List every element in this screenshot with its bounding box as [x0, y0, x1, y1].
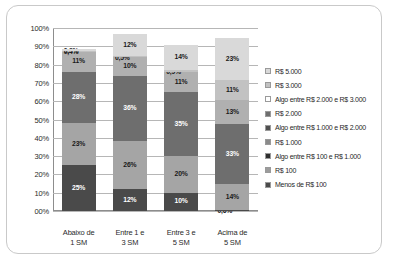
- legend-item-label: Algo entre R$ 100 e R$ 1.000: [275, 153, 361, 160]
- legend-item[interactable]: Menos de R$ 100: [265, 178, 385, 192]
- y-axis-labels: 00%10%20%30%40%50%60%70%80%90%100%: [11, 28, 51, 211]
- segment-value-label: 10%: [123, 63, 136, 70]
- bar-segment[interactable]: 23%: [62, 123, 96, 165]
- bar-segment[interactable]: [62, 49, 96, 51]
- segment-value-label: 11%: [72, 58, 85, 65]
- bar-segment[interactable]: 13%: [215, 100, 249, 124]
- segment-value-label: 14%: [175, 54, 188, 61]
- chart-card: 00%10%20%30%40%50%60%70%80%90%100% 25%23…: [6, 5, 382, 254]
- bar-segment[interactable]: 12%: [113, 189, 147, 211]
- bar-column[interactable]: 12%26%36%10%0,5%12%: [113, 28, 147, 211]
- legend-item[interactable]: R$ 1.000: [265, 135, 385, 149]
- legend-item[interactable]: R$ 2.000: [265, 107, 385, 121]
- bar-segment[interactable]: 14%: [215, 184, 249, 210]
- segment-value-label: 12%: [123, 197, 136, 204]
- segment-value-label: 14%: [226, 194, 239, 201]
- bar-segment[interactable]: 10%: [164, 193, 198, 211]
- segment-value-label: 23%: [226, 56, 239, 63]
- bar-segment[interactable]: 25%: [62, 165, 96, 211]
- segment-value-label: 35%: [175, 121, 188, 128]
- y-axis-tick-label: 10%: [35, 188, 49, 197]
- y-axis-tick-label: 00%: [35, 207, 49, 216]
- segment-value-label: 28%: [72, 94, 85, 101]
- bar-segment[interactable]: 14%: [164, 45, 198, 71]
- legend-item-label: R$ 5.000: [275, 68, 301, 75]
- y-axis-tick-label: 70%: [35, 78, 49, 87]
- segment-value-label: 20%: [175, 171, 188, 178]
- y-axis-tick-label: 60%: [35, 97, 49, 106]
- legend-item-label: Menos de R$ 100: [275, 181, 327, 188]
- y-axis-tick-label: 50%: [35, 115, 49, 124]
- y-axis-tick-label: 100%: [31, 24, 49, 33]
- segment-value-label: 13%: [226, 109, 239, 116]
- y-axis-tick-label: 80%: [35, 60, 49, 69]
- segment-value-label: 12%: [123, 42, 136, 49]
- legend-item[interactable]: R$ 5.000: [265, 64, 385, 78]
- bar-segment[interactable]: 12%: [113, 34, 147, 56]
- bar-segment[interactable]: 33%: [215, 124, 249, 184]
- x-axis-category-label: Acima de5 SM: [202, 228, 262, 248]
- legend-item[interactable]: Algo entre R$ 2.000 e R$ 3.000: [265, 92, 385, 106]
- legend-swatch-icon: [265, 139, 271, 145]
- legend-swatch-icon: [265, 68, 271, 74]
- y-axis-tick-label: 90%: [35, 42, 49, 51]
- bar-column[interactable]: 25%23%28%11%0,4%0,9%: [62, 28, 96, 211]
- segment-value-label: 10%: [175, 198, 188, 205]
- bar-segment[interactable]: [215, 210, 249, 211]
- segment-value-label: 33%: [226, 151, 239, 158]
- legend-swatch-icon: [265, 125, 271, 131]
- y-axis-tick-label: 40%: [35, 133, 49, 142]
- legend-swatch-icon: [265, 82, 271, 88]
- plot-area: 25%23%28%11%0,4%0,9%12%26%36%10%0,5%12%1…: [53, 28, 258, 211]
- bar-segment[interactable]: 23%: [215, 38, 249, 80]
- legend-swatch-icon: [265, 167, 271, 173]
- segment-value-label: 11%: [175, 79, 188, 86]
- legend-item-label: Algo entre R$ 1.000 e R$ 2.000: [275, 124, 366, 131]
- bar-segment[interactable]: 28%: [62, 72, 96, 123]
- bar-column[interactable]: 10%20%35%11%0,9%14%: [164, 28, 198, 211]
- x-axis-category-line: Acima de: [202, 228, 262, 238]
- legend-swatch-icon: [265, 96, 271, 102]
- segment-value-label: 25%: [72, 185, 85, 192]
- bar-segment[interactable]: 36%: [113, 76, 147, 142]
- bar-segment[interactable]: 11%: [215, 80, 249, 100]
- bar-segment[interactable]: [113, 56, 147, 57]
- bar-column[interactable]: 0,6%14%33%13%11%23%: [215, 28, 249, 211]
- segment-value-label: 23%: [72, 141, 85, 148]
- segment-value-label: 26%: [123, 162, 136, 169]
- legend-item[interactable]: R$ 100: [265, 163, 385, 177]
- bar-segment[interactable]: 35%: [164, 92, 198, 156]
- bar-segment[interactable]: 11%: [164, 72, 198, 92]
- bar-segment[interactable]: 26%: [113, 141, 147, 189]
- y-axis-tick-label: 20%: [35, 170, 49, 179]
- legend-item[interactable]: R$ 3.000: [265, 78, 385, 92]
- x-axis-labels: Abaixo de1 SMEntre 1 e3 SMEntre 3 e5 SMA…: [53, 214, 258, 248]
- bar-segment[interactable]: 20%: [164, 156, 198, 193]
- legend-item-label: R$ 3.000: [275, 82, 301, 89]
- chart-legend: R$ 5.000R$ 3.000Algo entre R$ 2.000 e R$…: [265, 64, 385, 192]
- legend-item[interactable]: Algo entre R$ 1.000 e R$ 2.000: [265, 121, 385, 135]
- legend-swatch-icon: [265, 182, 271, 188]
- legend-item-label: R$ 2.000: [275, 110, 301, 117]
- legend-swatch-icon: [265, 111, 271, 117]
- bar-segment[interactable]: [164, 70, 198, 72]
- x-axis-category-line: 5 SM: [202, 238, 262, 248]
- y-axis-tick-label: 30%: [35, 152, 49, 161]
- legend-item-label: Algo entre R$ 2.000 e R$ 3.000: [275, 96, 366, 103]
- legend-item[interactable]: Algo entre R$ 100 e R$ 1.000: [265, 149, 385, 163]
- legend-item-label: R$ 100: [275, 167, 296, 174]
- legend-item-label: R$ 1.000: [275, 139, 301, 146]
- legend-swatch-icon: [265, 153, 271, 159]
- segment-value-label: 11%: [226, 87, 239, 94]
- segment-value-label: 36%: [123, 105, 136, 112]
